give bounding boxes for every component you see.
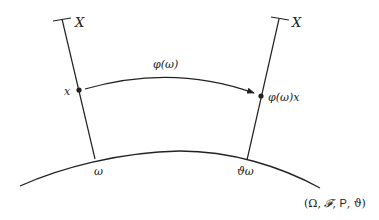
cocycle-diagram: X X x φ(ω)x φ(ω) ω ϑω (Ω, 𝓕, P, ϑ) <box>0 0 379 220</box>
point-phi-x-dot <box>258 93 263 98</box>
left-fiber-label: X <box>74 15 85 30</box>
right-fiber-line <box>247 19 279 160</box>
point-phi-x-label: φ(ω)x <box>268 91 300 104</box>
base-omega-label: ω <box>94 165 103 178</box>
point-x-label: x <box>64 85 71 98</box>
base-theta-omega-label: ϑω <box>237 165 254 178</box>
base-space-label: (Ω, 𝓕, P, ϑ) <box>304 197 366 210</box>
right-fiber-label: X <box>291 15 302 30</box>
cocycle-arrow <box>85 77 254 93</box>
right-fiber <box>247 17 289 160</box>
arrow-label: φ(ω) <box>153 58 178 71</box>
base-space-curve <box>20 151 320 188</box>
point-x-dot <box>76 87 81 92</box>
right-fiber-top-tick <box>271 17 289 20</box>
